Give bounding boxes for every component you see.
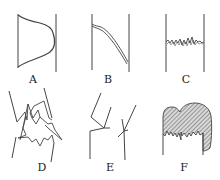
- panel-e-left-structure: [90, 93, 111, 159]
- panel-c: C: [166, 14, 204, 86]
- figure-panels: A B C D E F: [0, 0, 220, 180]
- panel-f-label: F: [180, 161, 188, 174]
- panel-b-label: B: [104, 73, 112, 86]
- panel-d-left-wall-upper: [9, 91, 17, 122]
- panel-d-left-wall-lower: [12, 137, 16, 158]
- panel-d-label: D: [38, 161, 47, 174]
- panel-a: A: [18, 14, 56, 86]
- panel-d: D: [9, 88, 62, 174]
- panel-e-label: E: [106, 161, 114, 174]
- panel-a-label: A: [28, 73, 38, 86]
- panel-f: F: [163, 103, 212, 174]
- panel-a-profile-curve: [18, 15, 55, 67]
- panel-e-right-structure: [118, 105, 136, 160]
- panel-b: B: [92, 14, 129, 86]
- panel-b-curve-lower: [92, 26, 127, 64]
- panel-d-right-wall-lower: [51, 143, 54, 162]
- panel-c-label: C: [182, 73, 190, 86]
- panel-e: E: [90, 93, 136, 174]
- panel-d-jagged-lines: [17, 101, 62, 146]
- panel-f-hatched-shape: [163, 103, 212, 151]
